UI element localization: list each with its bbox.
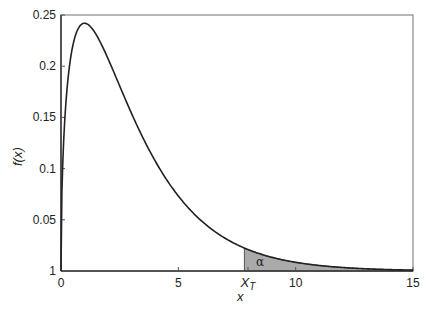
svg-text:f(x): f(x) (10, 147, 25, 166)
y-tick-label: 0.05 (33, 213, 57, 227)
alpha-label: α (256, 255, 264, 269)
x-tick-label: 15 (406, 276, 420, 290)
x-tick-label: 5 (175, 276, 182, 290)
y-tick-label: 0.15 (33, 110, 57, 124)
y-tick-label: 0.2 (39, 59, 56, 73)
y-tick-label: 1 (49, 264, 56, 278)
y-label-paren: (x) (10, 147, 25, 162)
x-tick-label: 10 (289, 276, 303, 290)
chi-squared-chart: 10.050.10.150.20.25 05XT1015 α x f(x) (0, 0, 431, 312)
density-curve (61, 23, 413, 271)
alpha-tail-area (244, 248, 413, 271)
plot-frame (61, 15, 413, 271)
y-axis-label: f(x) (10, 147, 25, 166)
x-tick-label: 0 (58, 276, 65, 290)
x-axis-label: x (236, 289, 244, 304)
y-ticks: 10.050.10.150.20.25 (33, 8, 65, 278)
y-tick-label: 0.25 (33, 8, 57, 22)
y-tick-label: 0.1 (39, 162, 56, 176)
